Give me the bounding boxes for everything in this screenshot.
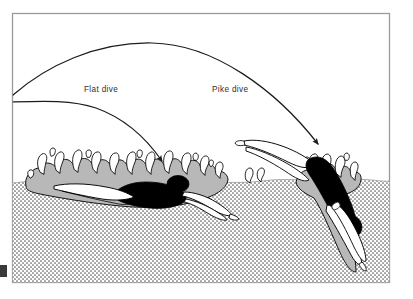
pike-dive-label: Pike dive: [212, 85, 248, 94]
dive-diagram-canvas: Flat dive Pike dive: [0, 0, 413, 299]
flat-dive-label: Flat dive: [84, 85, 118, 94]
pike-diver-feet: [235, 141, 245, 146]
dive-diagram-figure: Flat dive Pike dive: [0, 0, 413, 299]
left-edge-tick-mark: [0, 265, 7, 277]
flat-diver-head: [167, 176, 189, 193]
